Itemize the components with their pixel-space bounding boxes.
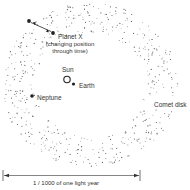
sun-marker bbox=[64, 76, 70, 82]
planet-x-marker bbox=[51, 31, 55, 35]
earth-label: Earth bbox=[79, 82, 95, 89]
planet-x-label: Planet X bbox=[58, 33, 83, 40]
scale-label: 1 / 1000 of one light year bbox=[33, 180, 99, 187]
earth-marker bbox=[72, 82, 75, 85]
planet-x-note-line2: through time) bbox=[42, 48, 98, 55]
diagram-canvas bbox=[0, 0, 190, 190]
planet-x-start-marker bbox=[27, 19, 31, 23]
planet-x-motion-arrow bbox=[31, 22, 51, 32]
sun-label: Sun bbox=[62, 66, 74, 73]
planet-x-note-line1: (changing position bbox=[42, 41, 98, 48]
neptune-label: Neptune bbox=[37, 94, 62, 101]
neptune-marker bbox=[30, 94, 34, 98]
comet-disk-diagram: Planet X (changing position through time… bbox=[0, 0, 190, 190]
comet-disk-label: Comet disk bbox=[154, 101, 187, 108]
